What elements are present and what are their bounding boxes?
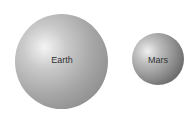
mars-label: Mars (148, 55, 168, 65)
earth-label: Earth (51, 55, 73, 65)
